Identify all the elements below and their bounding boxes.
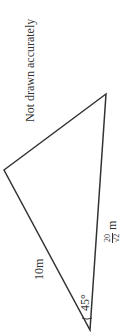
fraction: 20 √2	[104, 233, 121, 243]
side-length-label-fraction: 20 √2 m	[104, 221, 121, 243]
triangle-diagram	[0, 0, 132, 332]
side-length-label-10m: 10m	[32, 259, 47, 280]
fraction-unit: m	[105, 221, 120, 230]
fraction-denominator: √2	[113, 234, 121, 242]
not-drawn-accurately-note: Not drawn accurately	[23, 19, 38, 122]
fraction-numerator: 20	[104, 234, 112, 242]
angle-arc	[82, 318, 92, 319]
angle-label-45: 45°	[78, 294, 93, 311]
